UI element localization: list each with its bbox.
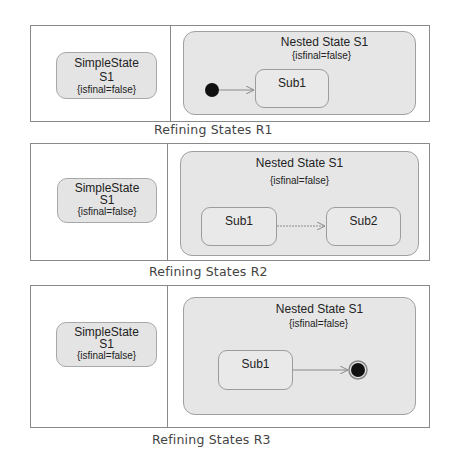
- final-state-icon[interactable]: [349, 361, 367, 379]
- initial-state-icon[interactable]: [205, 83, 219, 97]
- transitions-overlay: [0, 0, 454, 463]
